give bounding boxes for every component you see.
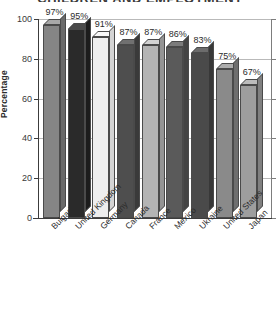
bar-value-label: 75% — [207, 51, 247, 61]
bar[interactable] — [43, 25, 60, 218]
y-tick-mark — [34, 59, 39, 60]
bar-front-face — [216, 69, 233, 218]
bar-side-face — [134, 33, 140, 212]
bar-side-face — [85, 17, 91, 212]
y-tick-label: 80 — [22, 54, 32, 64]
bar[interactable] — [166, 47, 183, 218]
chart-title: CHILDREN AND EMPLOYMENT — [0, 0, 280, 2]
bar[interactable] — [216, 69, 233, 218]
bar[interactable] — [142, 45, 159, 218]
bar[interactable] — [117, 45, 134, 218]
bar-front-face — [166, 47, 183, 218]
y-tick-label: 100 — [17, 14, 32, 24]
bar[interactable] — [68, 29, 85, 218]
bar-front-face — [43, 25, 60, 218]
y-tick-mark-right — [271, 138, 276, 139]
bar-side-face — [60, 13, 66, 212]
y-tick-mark — [34, 178, 39, 179]
bar-side-face — [208, 41, 214, 212]
y-tick-mark — [34, 138, 39, 139]
bar-front-face — [117, 45, 134, 218]
y-tick-mark-right — [271, 178, 276, 179]
y-axis-title: Percentage — [0, 70, 9, 118]
y-tick-mark — [34, 99, 39, 100]
bar-front-face — [142, 45, 159, 218]
y-tick-label: 60 — [22, 94, 32, 104]
bar-value-label: 67% — [232, 67, 272, 77]
bar-side-face — [159, 33, 165, 212]
bar-front-face — [191, 53, 208, 218]
plot-area: 020406080100 97%95%91%87%87%86%83%75%67% — [38, 19, 272, 218]
y-tick-label: 0 — [27, 213, 32, 223]
y-tick-label: 40 — [22, 133, 32, 143]
y-tick-mark-right — [271, 99, 276, 100]
bar-front-face — [68, 29, 85, 218]
bar-value-label: 83% — [183, 35, 223, 45]
bar-side-face — [183, 35, 189, 212]
y-tick-mark-right — [271, 19, 276, 20]
y-tick-mark-right — [271, 59, 276, 60]
bar-side-face — [233, 57, 239, 212]
y-tick-label: 20 — [22, 173, 32, 183]
bar[interactable] — [191, 53, 208, 218]
y-tick-mark — [34, 19, 39, 20]
